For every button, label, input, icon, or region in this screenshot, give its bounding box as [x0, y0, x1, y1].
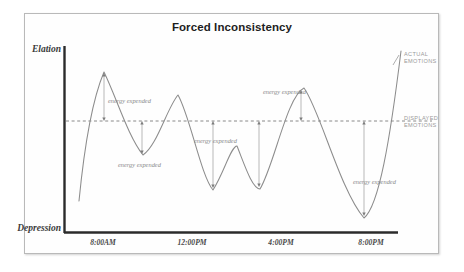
chart-plot: Elation Depression 8:00AM 12:00PM 4:00PM… [0, 0, 464, 272]
y-axis-bottom-label: Depression [16, 223, 61, 233]
energy-arrow-1 [102, 73, 105, 121]
energy-arrow-2 [140, 121, 143, 154]
x-tick-label-1: 12:00PM [177, 238, 206, 247]
displayed-emotions-legend-line1: DISPLAYED [404, 115, 438, 121]
actual-emotions-curve [79, 51, 401, 218]
x-tick-label-3: 8:00PM [358, 238, 384, 247]
energy-expended-label-4: energy expended [263, 88, 307, 95]
actual-emotions-legend-line1: ACTUAL [404, 51, 428, 57]
energy-expended-label-3: energy expended [194, 137, 238, 144]
energy-arrow-6 [362, 121, 365, 216]
displayed-emotions-legend-line2: EMOTIONS [404, 122, 437, 128]
energy-expended-label-1: energy expended [108, 97, 152, 104]
actual-emotions-legend-line2: EMOTIONS [404, 58, 437, 64]
x-tick-label-0: 8:00AM [90, 238, 116, 247]
energy-arrow-3 [211, 121, 214, 188]
energy-expended-label-2: energy expended [118, 161, 162, 168]
energy-expended-label-5: energy expended [353, 178, 397, 185]
x-tick-label-2: 4:00PM [267, 238, 294, 247]
actual-emotions-leader [393, 55, 399, 65]
figure-canvas: Forced Inconsistency Elation Depression … [0, 0, 464, 272]
energy-arrow-4 [257, 121, 260, 187]
y-axis-top-label: Elation [31, 44, 61, 54]
